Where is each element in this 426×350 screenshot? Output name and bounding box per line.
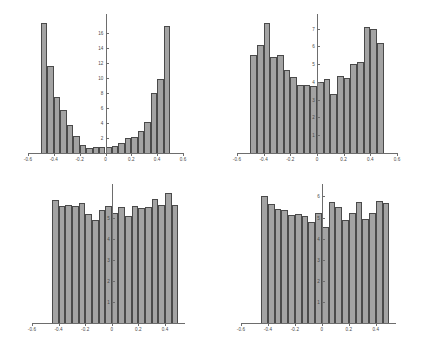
x-axis-tick-label: 0	[316, 157, 319, 162]
x-axis-tick	[349, 323, 350, 326]
histogram-bar	[275, 209, 282, 323]
histogram-bar	[268, 204, 275, 323]
histogram-bar	[362, 219, 369, 323]
histogram-bar	[357, 62, 364, 153]
histogram-bar	[261, 196, 268, 323]
histogram-bar	[165, 193, 172, 323]
x-axis-tick-label: 0.4	[367, 157, 374, 162]
y-axis-tick	[322, 281, 325, 282]
x-axis-tick-label: -0.4	[54, 327, 62, 332]
y-axis-tick	[317, 117, 320, 118]
histogram-bar	[335, 207, 342, 323]
histogram-bar	[315, 213, 322, 323]
histogram-bar	[290, 77, 297, 153]
x-axis-line	[32, 323, 185, 324]
y-axis-tick	[322, 218, 325, 219]
y-axis-tick	[106, 33, 109, 34]
y-axis-tick	[317, 29, 320, 30]
y-axis-tick-label: 1	[313, 299, 320, 304]
y-axis-tick	[106, 123, 109, 124]
x-axis-tick-label: 0.4	[154, 157, 161, 162]
panel-top-right: -0.6-0.4-0.200.20.40.61234567	[213, 0, 426, 175]
histogram-bar	[132, 206, 139, 323]
histogram-bar	[138, 208, 145, 323]
x-axis-tick-label: -0.6	[28, 327, 36, 332]
y-axis-tick-label: 5	[103, 215, 110, 220]
y-axis-line	[106, 14, 107, 153]
histogram-bar	[105, 206, 112, 323]
y-axis-tick-label: 3	[103, 257, 110, 262]
histogram-bar	[377, 43, 384, 153]
histogram-bar	[65, 205, 72, 323]
panel-top-left: -0.6-0.4-0.200.20.40.6246810121416	[0, 0, 213, 175]
x-axis-tick	[131, 153, 132, 156]
y-axis-tick	[106, 108, 109, 109]
histogram-bar	[72, 206, 79, 323]
x-axis-tick	[295, 323, 296, 326]
x-axis-tick	[397, 153, 398, 156]
x-axis-tick	[264, 153, 265, 156]
x-axis-tick	[237, 153, 238, 156]
y-axis-tick	[106, 93, 109, 94]
x-axis-tick-label: -0.4	[259, 157, 267, 162]
histogram-bar	[118, 207, 125, 323]
histogram-bar	[172, 205, 179, 323]
y-axis-tick	[317, 64, 320, 65]
x-axis-tick	[344, 153, 345, 156]
histogram-bar	[350, 64, 357, 153]
x-axis-tick	[317, 153, 318, 156]
x-axis-tick	[290, 153, 291, 156]
y-axis-tick-label: 14	[97, 46, 104, 51]
histogram-bar	[270, 57, 277, 153]
x-axis-tick-label: -0.2	[75, 157, 83, 162]
histogram-bar	[369, 213, 376, 323]
histogram-bar	[295, 214, 302, 323]
histogram-bar	[337, 76, 344, 153]
y-axis-tick	[112, 281, 115, 282]
histogram-bar	[330, 94, 337, 153]
x-axis-tick	[106, 153, 107, 156]
histogram-bar	[164, 26, 170, 153]
x-axis-tick	[138, 323, 139, 326]
y-axis-tick-label: 2	[97, 136, 104, 141]
x-axis-tick	[370, 153, 371, 156]
x-axis-tick-label: -0.6	[233, 157, 241, 162]
x-axis-tick	[322, 323, 323, 326]
x-axis-tick	[268, 323, 269, 326]
x-axis-tick-label: -0.2	[81, 327, 89, 332]
histogram-bar	[349, 213, 356, 323]
y-axis-tick-label: 12	[97, 61, 104, 66]
x-axis-tick-label: -0.2	[286, 157, 294, 162]
panel-bottom-right: -0.6-0.4-0.200.20.4123456	[213, 175, 426, 350]
panel-bottom-left: -0.6-0.4-0.200.20.412345	[0, 175, 213, 350]
histogram-bar	[281, 210, 288, 323]
histogram-bar	[257, 45, 264, 153]
histogram-bar	[92, 220, 99, 323]
x-axis-tick	[241, 323, 242, 326]
y-axis-tick-label: 5	[308, 62, 315, 67]
y-axis-tick	[106, 48, 109, 49]
histogram-bar	[342, 220, 349, 323]
y-axis-tick	[317, 100, 320, 101]
x-axis-tick	[54, 153, 55, 156]
y-axis-tick	[112, 302, 115, 303]
x-axis-tick	[112, 323, 113, 326]
histogram-bar	[125, 216, 132, 323]
x-axis-tick-label: -0.4	[264, 327, 272, 332]
x-axis-tick-label: 0.2	[135, 327, 142, 332]
x-axis-tick	[376, 323, 377, 326]
histogram-bar	[370, 29, 377, 153]
y-axis-tick-label: 5	[313, 215, 320, 220]
histogram-bar	[277, 55, 284, 153]
histogram-bar	[284, 70, 291, 153]
y-axis-tick	[106, 63, 109, 64]
x-axis-tick-label: 0	[321, 327, 324, 332]
y-axis-tick-label: 6	[97, 106, 104, 111]
x-axis-tick-label: 0	[104, 157, 107, 162]
x-axis-tick-label: -0.6	[24, 157, 32, 162]
histogram-bar	[264, 23, 271, 153]
histogram-bar	[250, 55, 257, 153]
x-axis-tick	[28, 153, 29, 156]
x-axis-tick	[59, 323, 60, 326]
y-axis-tick-label: 6	[308, 44, 315, 49]
